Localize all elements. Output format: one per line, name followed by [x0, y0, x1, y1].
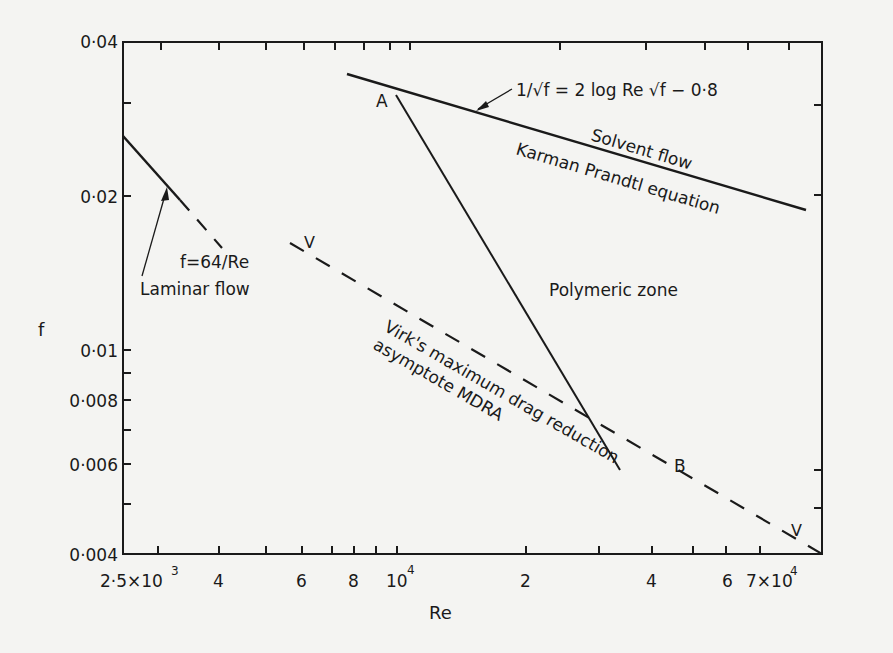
arrowhead-icon — [161, 187, 169, 201]
x-tick-label: 2 — [520, 571, 531, 591]
y-axis-title: f — [38, 319, 45, 340]
x-tick-label: 10 — [386, 571, 408, 591]
point-a-label: A — [376, 91, 388, 111]
y-tick-label: 0·02 — [80, 187, 118, 207]
x-tick-labels: 2·5×10 3 4 6 8 10 4 2 4 6 7×10 4 — [100, 563, 798, 591]
v-marker-label: V — [304, 233, 315, 252]
x-tick-label: 2·5×10 — [100, 571, 163, 591]
x-tick-exponent: 4 — [407, 563, 415, 577]
laminar-extension-line — [180, 200, 222, 248]
v-marker-label: V — [791, 521, 802, 540]
polymeric-zone-label: Polymeric zone — [549, 280, 678, 300]
arrowhead-icon — [476, 101, 489, 111]
friction-factor-chart: 0·04 0·02 0·01 0·008 0·006 0·004 2·5×10 … — [0, 0, 893, 653]
x-axis-title: Re — [429, 602, 452, 623]
x-tick-label: 4 — [213, 571, 224, 591]
x-tick-exponent: 3 — [171, 564, 179, 578]
y-tick-label: 0·004 — [69, 545, 118, 565]
laminar-equation-label: f=64/Re — [180, 252, 249, 272]
x-ticks — [158, 42, 789, 554]
x-tick-label: 4 — [646, 571, 657, 591]
y-tick-label: 0·01 — [80, 341, 118, 361]
virk-asymptote-label-1: Virk's maximum drag reduction — [381, 316, 623, 467]
x-tick-label: 6 — [722, 571, 733, 591]
laminar-arrow — [142, 195, 165, 276]
y-tick-labels: 0·04 0·02 0·01 0·008 0·006 0·004 — [69, 32, 118, 565]
x-tick-label: 8 — [348, 571, 359, 591]
x-tick-label: 7×10 — [746, 571, 793, 591]
y-tick-label: 0·006 — [69, 455, 118, 475]
x-tick-exponent: 4 — [790, 564, 798, 578]
laminar-flow-label: Laminar flow — [140, 279, 250, 299]
x-tick-label: 6 — [296, 571, 307, 591]
laminar-flow-line — [123, 136, 180, 200]
karman-prandtl-equation: 1/√f = 2 log Re √f − 0·8 — [516, 80, 718, 100]
y-tick-label: 0·008 — [69, 391, 118, 411]
point-b-label: B — [674, 456, 686, 476]
y-tick-label: 0·04 — [80, 32, 118, 52]
y-ticks — [123, 103, 822, 508]
